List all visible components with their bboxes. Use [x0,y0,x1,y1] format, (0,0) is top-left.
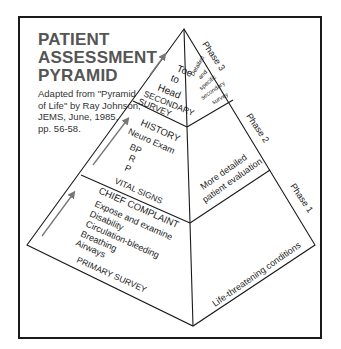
arrow-icon [93,120,127,165]
phase-label: Phase 1 [288,182,315,215]
pyramid-diagram: Toe to Head SECONDARY SURVEY HISTORY Neu… [0,0,341,349]
pyramid-outline [27,29,315,326]
phase-label: Phase 3 [200,40,227,73]
secondary-item: to [169,72,181,85]
right-bottom-line: Life-threatening conditions [210,240,303,309]
phase-label: Phase 2 [244,112,271,145]
primary-survey-label: PRIMARY SURVEY [75,255,148,295]
arrow-icon [42,194,73,236]
right-divider-1 [187,100,233,127]
arrow-icon [150,56,164,75]
vital-item: P [123,163,133,175]
